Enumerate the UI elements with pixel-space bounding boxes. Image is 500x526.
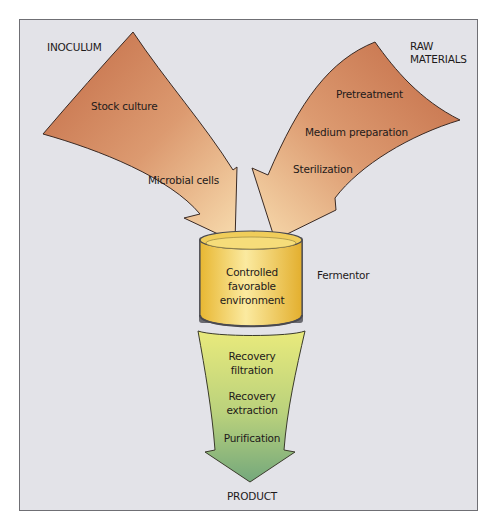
- inoculum-heading: INOCULUM: [47, 41, 102, 54]
- step-microbial-cells: Microbial cells: [148, 174, 219, 187]
- raw-materials-heading-line2: MATERIALS: [410, 53, 467, 66]
- step-stock-culture: Stock culture: [91, 100, 157, 113]
- step-recovery-filtration-line2: filtration: [210, 364, 294, 377]
- step-medium-preparation: Medium preparation: [305, 126, 408, 139]
- step-recovery-extraction-line1: Recovery: [210, 390, 294, 403]
- raw-materials-arrow: [252, 42, 460, 240]
- step-sterilization: Sterilization: [293, 163, 353, 176]
- step-recovery-extraction-line2: extraction: [210, 404, 294, 417]
- fermentor-content-line1: Controlled: [210, 266, 294, 279]
- step-recovery-filtration-line1: Recovery: [210, 350, 294, 363]
- fermentor-content-line2: favorable: [210, 280, 294, 293]
- step-pretreatment: Pretreatment: [336, 88, 403, 101]
- product-label: PRODUCT: [210, 490, 294, 503]
- inoculum-arrow: [43, 32, 237, 242]
- fermentor-content-line3: environment: [210, 294, 294, 307]
- fermentor-label: Fermentor: [317, 269, 369, 282]
- raw-materials-heading-line1: RAW: [410, 40, 433, 53]
- diagram-shapes: [0, 0, 500, 526]
- step-purification: Purification: [210, 432, 294, 445]
